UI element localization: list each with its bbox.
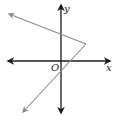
- coordinate-diagram: y O x: [0, 0, 116, 116]
- y-axis-label: y: [63, 3, 70, 14]
- origin-label: O: [51, 62, 59, 73]
- graph-upper-ray: [9, 14, 86, 44]
- graph-lower-ray: [23, 44, 86, 112]
- x-axis-label: x: [106, 62, 112, 73]
